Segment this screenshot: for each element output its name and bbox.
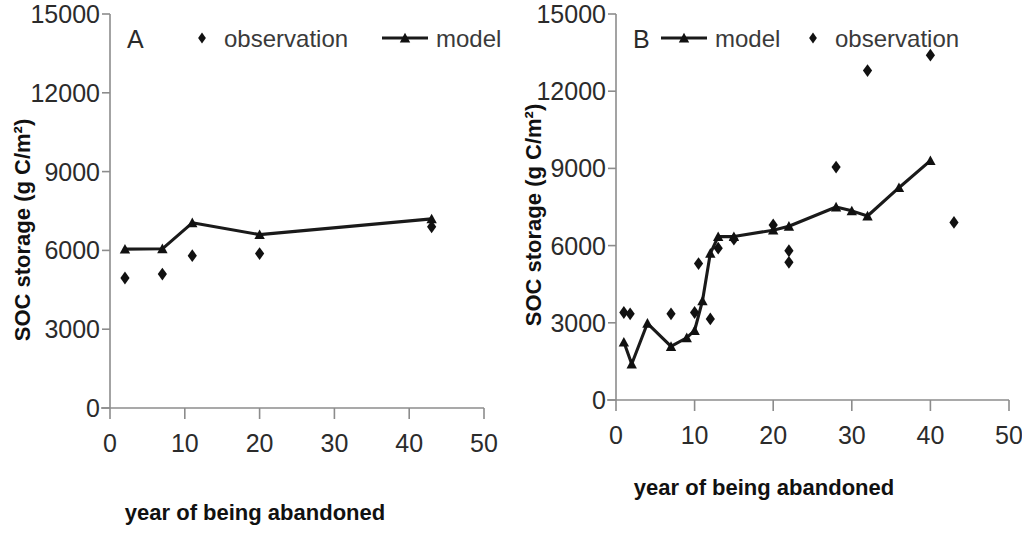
observation-marker-diamond [784,256,793,269]
x-axis-title-text: year of being abandoned [634,475,894,500]
x-tick-label: 20 [246,429,274,457]
x-tick-label: 20 [759,421,787,449]
y-axis-title-text: SOC storage (g C/m²) [10,119,35,341]
y-tick-label: 15000 [536,0,606,28]
panel-a-legend: observationmodel [198,25,501,52]
x-tick-label: 0 [609,421,623,449]
y-tick-label: 0 [592,386,606,414]
observation-marker-diamond [694,257,703,270]
x-tick-label: 30 [320,429,348,457]
y-tick-label: 6000 [550,232,606,260]
y-tick-label: 0 [86,394,100,422]
legend-label-model: model [436,25,501,52]
x-tick-label: 50 [470,429,498,457]
observation-marker-diamond [158,268,167,281]
y-tick-label: 15000 [30,0,100,28]
model-marker-triangle [642,318,652,328]
y-tick-label: 9000 [44,158,100,186]
x-tick-label: 30 [838,421,866,449]
y-tick-label: 9000 [550,154,606,182]
observation-marker-diamond [949,216,958,229]
legend-observation-diamond [198,33,206,44]
y-tick-label: 3000 [44,315,100,343]
model-marker-triangle [627,359,637,369]
panel-a-x-tick-labels: 01020304050 [103,408,498,457]
legend-label-model: model [715,25,780,52]
observation-marker-diamond [784,244,793,257]
x-axis-title-text: year of being abandoned [125,500,385,525]
observation-marker-diamond [188,249,197,262]
model-line-path [125,219,432,249]
legend-label-observation: observation [835,25,959,52]
panel-a-axes-lines [101,14,484,408]
panel-b-x-tick-labels: 01020304050 [609,400,1022,449]
figure-root: SOC storage (g C/m²) 0300060009000120001… [0,0,1022,538]
y-tick-label: 6000 [44,236,100,264]
y-tick-label: 12000 [30,79,100,107]
panel-a-letter: A [127,25,144,53]
panel-b-series [619,49,959,369]
panel-b-y-axis-title: SOC storage (g C/m²) [521,104,546,326]
model-marker-triangle [705,248,715,258]
model-marker-triangle [689,325,699,335]
panel-a-y-tick-labels: 03000600090001200015000 [30,0,110,422]
panel-a-y-axis-title: SOC storage (g C/m²) [10,119,35,341]
observation-marker-diamond [666,307,675,320]
observation-marker-diamond [831,161,840,174]
chart-panel-b: SOC storage (g C/m²) 0300060009000120001… [511,0,1022,538]
observation-marker-diamond [120,272,129,285]
y-tick-label: 12000 [536,77,606,105]
x-tick-label: 10 [171,429,199,457]
panel-b-legend: modelobservation [661,25,959,52]
x-tick-label: 0 [103,429,117,457]
model-marker-triangle [925,155,935,165]
panel-b-y-tick-labels: 03000600090001200015000 [536,0,616,414]
observation-marker-diamond [626,307,635,320]
panel-b-svg: SOC storage (g C/m²) 0300060009000120001… [511,0,1022,538]
model-marker-triangle [697,296,707,306]
observation-marker-diamond [706,313,715,326]
panel-b-letter: B [633,25,650,53]
model-marker-triangle [619,337,629,347]
observation-marker-diamond [255,247,264,260]
chart-panel-a: SOC storage (g C/m²) 0300060009000120001… [0,0,511,538]
panel-a-svg: SOC storage (g C/m²) 0300060009000120001… [0,0,511,538]
x-tick-label: 50 [995,421,1022,449]
x-tick-label: 40 [395,429,423,457]
observation-marker-diamond [863,64,872,77]
panel-a-series [120,214,437,285]
model-line-path [624,161,931,364]
y-axis-title-text: SOC storage (g C/m²) [521,104,546,326]
legend-observation-diamond [809,33,817,44]
x-tick-label: 40 [916,421,944,449]
x-tick-label: 10 [681,421,709,449]
legend-label-observation: observation [224,25,348,52]
y-tick-label: 3000 [550,309,606,337]
